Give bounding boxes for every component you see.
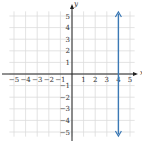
y-tick-label: 3 (66, 36, 70, 44)
y-tick-label: −2 (60, 94, 70, 102)
x-tick-label: −5 (9, 76, 19, 84)
x-tick-label: −3 (32, 76, 42, 84)
x-tick-label: 5 (128, 76, 132, 84)
y-tick-label: −1 (60, 82, 70, 90)
x-tick-label: −4 (20, 76, 31, 84)
x-tick-label: −2 (44, 76, 54, 84)
y-tick-label: −5 (60, 129, 70, 137)
y-tick-label: 1 (66, 59, 70, 67)
x-tick-label: 2 (93, 76, 97, 84)
x-axis-arrow-icon (133, 72, 138, 76)
y-tick-label: 2 (66, 47, 70, 55)
y-tick-label: −4 (60, 117, 71, 125)
x-axis-label: x (140, 69, 142, 77)
y-tick-label: −3 (60, 105, 70, 113)
coordinate-plane: xy −5−4−3−2−11234554321−1−2−3−4−5 (0, 0, 142, 146)
y-tick-label: 5 (66, 13, 70, 21)
x-tick-label: 3 (105, 76, 109, 84)
x-tick-label: 1 (81, 76, 85, 84)
axes: xy (2, 0, 142, 141)
y-tick-label: 4 (66, 24, 71, 32)
y-axis-label: y (73, 0, 79, 8)
